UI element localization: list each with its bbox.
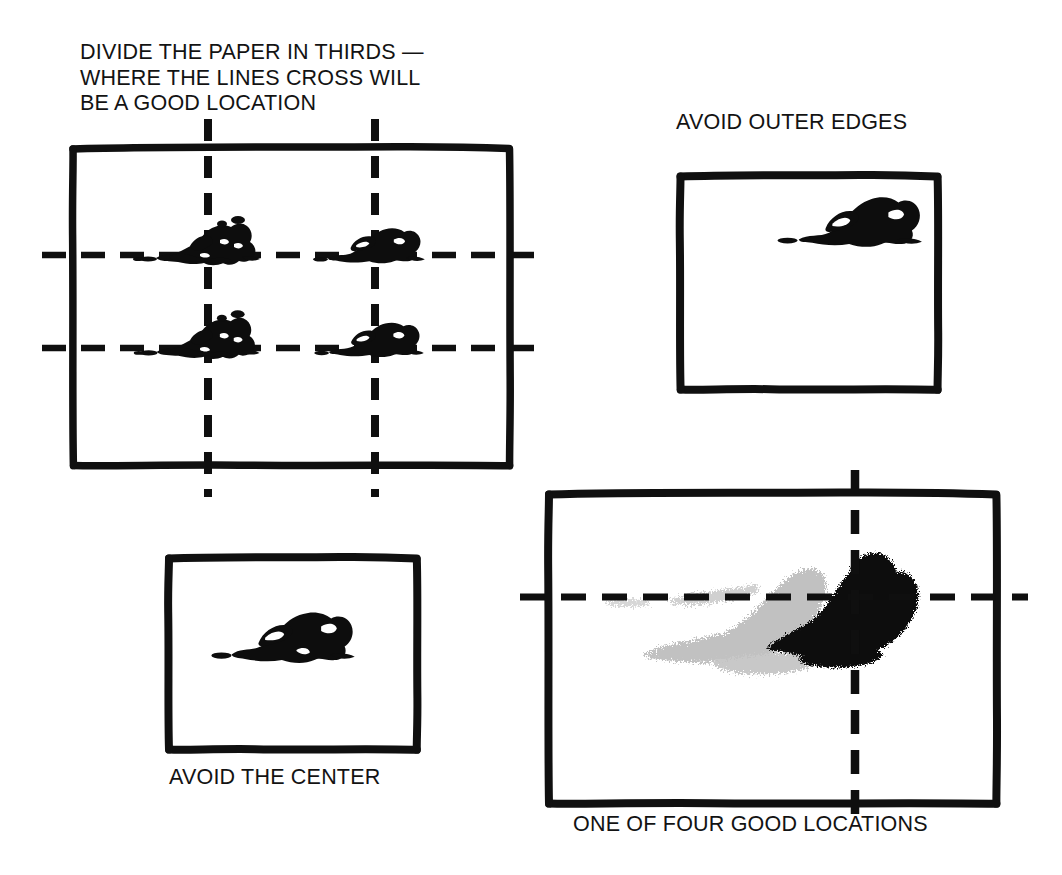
subject-wash-light (606, 569, 826, 674)
caption-avoid-outer-edges: AVOID OUTER EDGES (676, 110, 1016, 136)
caption-divide-in-thirds: DIVIDE THE PAPER IN THIRDS — WHERE THE L… (80, 40, 500, 117)
subject-blob-top-left (133, 216, 260, 265)
diagram-canvas: DIVIDE THE PAPER IN THIRDS — WHERE THE L… (0, 0, 1062, 875)
panel-good-location (520, 470, 1030, 830)
panel-avoid-the-center (150, 540, 440, 770)
subject-blob-bottom-right (314, 323, 423, 357)
subject-blob-center (211, 613, 354, 663)
subject-blob-top-right (313, 228, 425, 263)
panel-rule-of-thirds (40, 115, 550, 505)
panel-frame-thirds (73, 147, 511, 466)
subject-blob-bottom-left (134, 310, 260, 359)
subject-blob-near-edge (777, 197, 921, 247)
panel-avoid-outer-edges (660, 158, 960, 408)
